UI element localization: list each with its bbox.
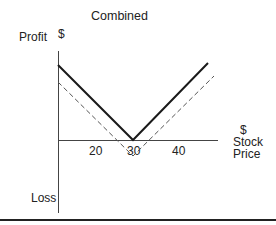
payoff-chart	[0, 0, 276, 225]
solid-payoff-line	[58, 63, 208, 140]
